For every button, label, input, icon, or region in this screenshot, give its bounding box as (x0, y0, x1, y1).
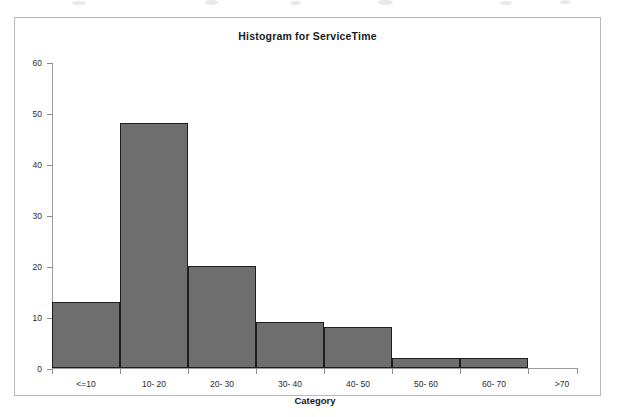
y-tick-label: 20 (33, 262, 42, 272)
x-axis-title: Category (52, 395, 578, 406)
y-tick (47, 267, 53, 268)
y-tick-label: 0 (37, 364, 42, 374)
y-tick (47, 114, 53, 115)
x-tick-label: 10- 20 (142, 379, 166, 389)
x-tick (52, 369, 53, 374)
y-tick-label: 50 (33, 109, 42, 119)
histogram-bar (324, 327, 392, 368)
x-tick (528, 369, 529, 374)
x-tick-label: 50- 60 (414, 379, 438, 389)
chart-title: Histogram for ServiceTime (15, 30, 600, 42)
y-tick (47, 216, 53, 217)
x-tick (577, 369, 578, 374)
histogram-bar (392, 358, 460, 368)
chart-frame: Histogram for ServiceTime 0102030405060 … (14, 17, 601, 396)
x-tick (120, 369, 121, 374)
scan-artifact-smudges (0, 0, 620, 8)
histogram-bar (256, 322, 324, 368)
x-tick-label: >70 (555, 379, 569, 389)
histogram-bar (52, 302, 120, 368)
y-tick-label: 60 (33, 58, 42, 68)
y-tick (47, 63, 53, 64)
y-tick-label: 40 (33, 160, 42, 170)
x-tick (256, 369, 257, 374)
y-tick (47, 165, 53, 166)
x-axis-line (52, 368, 578, 369)
x-tick (324, 369, 325, 374)
histogram-bar (188, 266, 256, 368)
y-tick-label: 10 (33, 313, 42, 323)
x-tick-label: 60- 70 (482, 379, 506, 389)
x-tick-label: <=10 (76, 379, 95, 389)
x-tick-label: 30- 40 (278, 379, 302, 389)
plot-area: 0102030405060 <=1010- 2020- 3030- 4040- … (52, 63, 578, 369)
x-tick (460, 369, 461, 374)
histogram-bar (460, 358, 528, 368)
x-tick-label: 40- 50 (346, 379, 370, 389)
x-tick-label: 20- 30 (210, 379, 234, 389)
histogram-bar (120, 123, 188, 368)
x-tick (392, 369, 393, 374)
x-tick (188, 369, 189, 374)
y-tick-label: 30 (33, 211, 42, 221)
